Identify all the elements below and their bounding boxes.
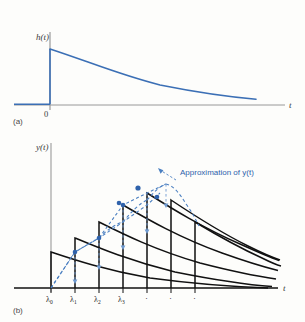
tick-label-lambda-1: λ1 [70, 295, 77, 305]
approximation-arc-4 [166, 184, 186, 204]
convolution-figure: h(t) t 0 (a) [0, 0, 305, 322]
panel-a-origin-label: 0 [44, 109, 48, 119]
approximation-rising-segment [51, 193, 160, 288]
tick-label-lambda-2: λ2 [94, 295, 101, 305]
sample-point-3 [121, 203, 126, 208]
sample-point-4 [117, 201, 122, 206]
tick-label-lambda-0: λ0 [46, 295, 53, 305]
sample-point-5 [155, 195, 160, 200]
panel-b-x-axis-label: t [283, 283, 286, 293]
panel-a-y-axis-label: h(t) [36, 32, 49, 42]
panel-b-envelope-polyline [51, 184, 166, 288]
panel-b-tick-labels: λ0 λ1 λ2 λ3 [46, 295, 125, 305]
annotation-arrowhead [158, 168, 163, 174]
impulse-response-4 [147, 193, 279, 288]
panel-b-continuation-dots: · · · [145, 293, 196, 303]
panel-b-tag: (b) [13, 306, 23, 315]
panel-a-x-axis-label: t [289, 100, 292, 110]
tick-label-lambda-3: λ3 [118, 295, 125, 305]
figure-container: h(t) t 0 (a) [0, 0, 305, 322]
drop-arrow-3 [121, 246, 126, 250]
sample-point-1 [73, 250, 78, 255]
impulse-response-2 [99, 222, 276, 288]
panel-b-annotation-label: Approximation of y(t) [180, 168, 254, 177]
annotation-leader-line [160, 170, 176, 180]
panel-b-annotation-leader [158, 168, 176, 180]
sample-point-peak [135, 185, 140, 190]
panel-a-tag: (a) [13, 117, 23, 126]
continuation-dot-3: · [193, 293, 196, 303]
continuation-dot-1: · [145, 293, 148, 303]
panel-a-decay-curve [50, 49, 256, 99]
drop-arrow-4 [145, 230, 150, 234]
panel-a: h(t) t 0 (a) [13, 32, 292, 126]
drop-arrow-1 [73, 280, 78, 284]
panel-b: Approximation of y(t) y(t) t λ0 λ1 λ2 λ3 [13, 142, 286, 315]
panel-b-y-axis-label: y(t) [35, 142, 49, 152]
sample-point-2 [97, 236, 102, 241]
continuation-dot-2: · [169, 293, 172, 303]
